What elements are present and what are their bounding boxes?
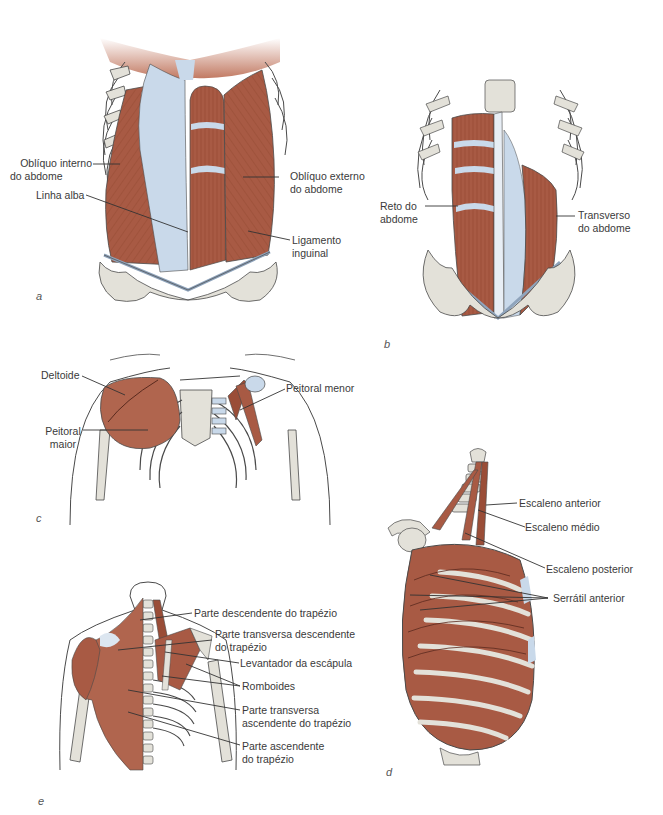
panel-letter-b: b [384,338,390,350]
label-obliquo-interno: Oblíquo interno do abdome [10,157,92,183]
label-reto-abdome: Reto do abdome [380,200,418,226]
panel-letter-e: e [38,795,44,807]
label-peitoral-maior: Peitoral maior [38,425,88,451]
label-obliquo-externo: Oblíquo externo do abdome [290,170,365,196]
label-parte-transversa-descendente: Parte transversa descendente do trapézio [215,628,355,654]
anatomy-illustration [0,0,663,815]
panel-b-figure [418,80,584,318]
label-parte-ascendente: Parte ascendente do trapézio [242,740,324,766]
panel-c-figure [70,354,330,525]
panel-letter-d: d [386,766,392,778]
label-parte-descendente: Parte descendente do trapézio [194,607,337,620]
label-serratil-anterior: Serrátil anterior [553,592,625,605]
label-parte-transversa-ascendente: Parte transversa ascendente do trapézio [242,704,351,730]
label-levantador-escapula: Levantador da escápula [240,657,352,670]
label-escaleno-posterior: Escaleno posterior [546,563,633,576]
label-peitoral-menor: Peitoral menor [286,382,354,395]
label-transverso-abdome: Transverso do abdome [578,209,631,235]
label-escaleno-medio: Escaleno médio [525,521,600,534]
label-linha-alba: Linha alba [36,189,84,202]
panel-d-figure [388,449,536,766]
panel-a-figure [99,38,287,301]
label-ligamento-inguinal: Ligamento inguinal [292,234,341,260]
panel-letter-a: a [36,290,42,302]
label-deltoide: Deltoide [41,369,80,382]
label-romboides: Romboides [242,680,295,693]
label-escaleno-anterior: Escaleno anterior [519,497,601,510]
panel-letter-c: c [36,512,42,524]
